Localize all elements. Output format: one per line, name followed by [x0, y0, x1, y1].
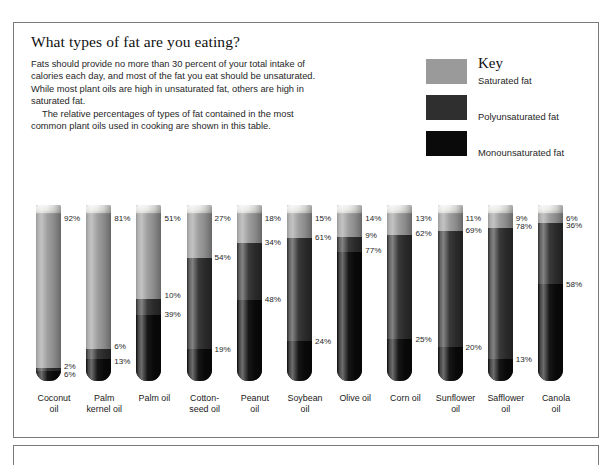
oil-fat-composition-chart: 92%2%6%Coconutoil81%6%13%Palmkernel oil5… [31, 201, 587, 431]
oil-name-label: Sunfloweroil [428, 393, 484, 415]
tube-segment-sat [187, 213, 212, 258]
tube-column: 81%6%13%Palmkernel oil [81, 201, 127, 431]
tube-column: 6%36%58%Canolaoil [533, 201, 579, 431]
test-tube-9 [438, 205, 463, 381]
tube-column: 92%2%6%Coconutoil [31, 201, 77, 431]
legend-key: KeySaturated fatPolyunsaturated fatMonou… [426, 59, 601, 167]
tube-percent-label: 14% [365, 214, 381, 223]
tube-percent-label: 92% [64, 214, 80, 223]
tube-segment-poly [438, 231, 463, 347]
tube-percent-label: 78% [516, 222, 532, 231]
oil-name-label: Olive oil [327, 393, 383, 404]
oil-name-label: Saffloweroil [478, 393, 534, 415]
oil-name-line-1: Palm oil [126, 393, 182, 404]
tube-segment-mono [337, 252, 362, 381]
legend-row-3: Monounsaturated fat [426, 131, 601, 167]
tube-segment-poly [488, 228, 513, 359]
legend-label-1: Saturated fat [478, 75, 532, 86]
oil-name-label: Cotton-seed oil [177, 393, 233, 415]
tube-percent-label: 10% [164, 291, 180, 300]
tube-percent-label: 62% [415, 229, 431, 238]
tube-segment-mono [136, 315, 161, 381]
tube-percent-label: 19% [215, 345, 231, 354]
saturated-fat-swatch [426, 59, 467, 84]
intro-paragraph-2: The relative percentages of types of fat… [31, 108, 331, 133]
oil-name-line-2: oil [478, 404, 534, 415]
test-tube-8 [387, 205, 412, 381]
oil-name-line-1: Corn oil [377, 393, 433, 404]
tube-segment-poly [136, 299, 161, 316]
tube-segment-sat [86, 213, 111, 349]
tube-segment-sat [488, 213, 513, 228]
tube-segment-sat [337, 213, 362, 237]
tube-percent-label: 36% [566, 221, 582, 230]
tube-percent-label: 20% [466, 343, 482, 352]
oil-name-line-1: Safflower [478, 393, 534, 404]
tube-segment-sat [538, 213, 563, 223]
monounsaturated-fat-swatch [426, 131, 467, 156]
oil-name-line-1: Olive oil [327, 393, 383, 404]
tube-percent-label: 54% [215, 253, 231, 262]
tube-segment-mono [387, 339, 412, 381]
tube-percent-label: 18% [265, 214, 281, 223]
test-tube-1 [36, 205, 61, 381]
oil-name-line-2: oil [227, 404, 283, 415]
intro-paragraph-1: Fats should provide no more than 30 perc… [31, 58, 331, 108]
next-panel-partial [13, 445, 599, 465]
tube-percent-label: 13% [516, 355, 532, 364]
legend-title: Key [478, 55, 503, 72]
tube-percent-label: 13% [415, 214, 431, 223]
tube-column: 14%9%77%Olive oil [332, 201, 378, 431]
tube-percent-label: 6% [114, 342, 126, 351]
tube-segment-mono [86, 359, 111, 381]
page-top-text-sliver [150, 0, 490, 9]
legend-label-3: Monounsaturated fat [478, 147, 564, 158]
oil-name-line-2: oil [528, 404, 584, 415]
test-tube-2 [86, 205, 111, 381]
oil-name-label: Corn oil [377, 393, 433, 404]
oil-name-line-2: seed oil [177, 404, 233, 415]
polyunsaturated-fat-swatch [426, 95, 467, 120]
oil-name-label: Palm oil [126, 393, 182, 404]
tube-percent-label: 81% [114, 214, 130, 223]
oil-name-line-2: oil [26, 404, 82, 415]
tube-segment-poly [538, 223, 563, 283]
test-tube-7 [337, 205, 362, 381]
tube-percent-label: 58% [566, 280, 582, 289]
oil-name-line-1: Sunflower [428, 393, 484, 404]
oil-name-line-1: Soybean [277, 393, 333, 404]
legend-row-1: KeySaturated fat [426, 59, 601, 95]
tube-column: 13%62%25%Corn oil [382, 201, 428, 431]
tube-percent-label: 25% [415, 335, 431, 344]
tube-segment-sat [36, 213, 61, 368]
tube-segment-mono [488, 359, 513, 381]
test-tube-3 [136, 205, 161, 381]
tube-percent-label: 15% [315, 214, 331, 223]
tube-percent-label: 34% [265, 238, 281, 247]
tube-segment-poly [287, 238, 312, 340]
intro-text-block: Fats should provide no more than 30 perc… [31, 58, 331, 132]
tube-percent-label: 11% [466, 214, 482, 223]
tube-segment-poly [387, 235, 412, 339]
tube-column: 18%34%48%Peanutoil [232, 201, 278, 431]
tube-percent-label: 9% [365, 231, 377, 240]
oil-name-line-2: oil [277, 404, 333, 415]
oil-name-line-2: oil [428, 404, 484, 415]
page-title: What types of fat are you eating? [31, 33, 240, 51]
tube-segment-mono [538, 284, 563, 381]
tube-percent-label: 39% [164, 310, 180, 319]
oil-name-label: Peanutoil [227, 393, 283, 415]
tube-percent-label: 13% [114, 357, 130, 366]
tube-segment-sat [136, 213, 161, 299]
tube-column: 51%10%39%Palm oil [131, 201, 177, 431]
oil-name-label: Coconutoil [26, 393, 82, 415]
tube-percent-label: 48% [265, 295, 281, 304]
tube-percent-label: 77% [365, 246, 381, 255]
tube-column: 27%54%19%Cotton-seed oil [182, 201, 228, 431]
tube-segment-poly [187, 258, 212, 349]
tube-percent-label: 61% [315, 233, 331, 242]
tube-segment-poly [337, 237, 362, 252]
oil-name-label: Palmkernel oil [76, 393, 132, 415]
oil-name-line-1: Canola [528, 393, 584, 404]
tube-segment-mono [187, 349, 212, 381]
